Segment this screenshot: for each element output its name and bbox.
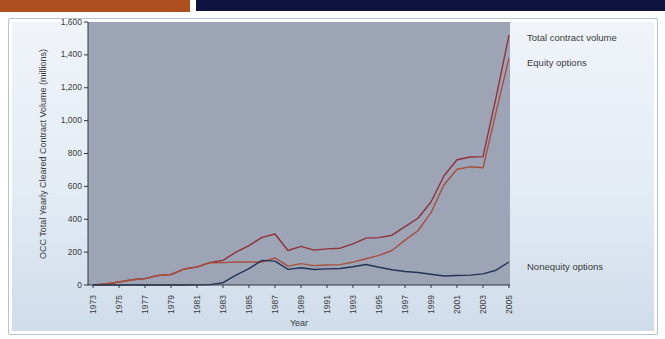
x-tick-label: 1975 [114,290,125,320]
x-tick-label: 1987 [270,290,281,320]
y-tick-label: 200 [46,247,82,258]
plot-area [88,22,510,285]
x-tick-label: 1991 [322,290,333,320]
figure-page: { "header": { "orange_bar_color": "#ad4f… [0,0,665,339]
y-tick-label: 600 [46,181,82,192]
x-tick-label: 1985 [244,290,255,320]
y-tick-label: 800 [46,148,82,159]
legend-label-nonequity-options: Nonequity options [527,261,603,272]
y-tick-label: 1,400 [46,49,82,60]
x-axis-title: Year [279,318,319,328]
line-chart [0,0,665,339]
y-tick-label: 400 [46,214,82,225]
x-tick-label: 1989 [296,290,307,320]
x-tick-label: 1981 [192,290,203,320]
x-tick-label: 1993 [348,290,359,320]
x-tick-label: 2001 [452,290,463,320]
y-tick-label: 1,200 [46,82,82,93]
x-tick-label: 1973 [88,290,99,320]
legend-label-equity-options: Equity options [527,57,587,68]
x-tick-label: 2003 [478,290,489,320]
legend-label-total-contract-volume: Total contract volume [527,32,617,43]
x-tick-label: 1977 [140,290,151,320]
y-tick-label: 1,600 [46,17,82,28]
x-tick-label: 1995 [374,290,385,320]
x-tick-label: 1997 [400,290,411,320]
x-tick-label: 1983 [218,290,229,320]
x-tick-label: 2005 [504,290,515,320]
y-tick-label: 1,000 [46,115,82,126]
x-tick-label: 1979 [166,290,177,320]
y-tick-label: 0 [46,280,82,291]
x-tick-label: 1999 [426,290,437,320]
